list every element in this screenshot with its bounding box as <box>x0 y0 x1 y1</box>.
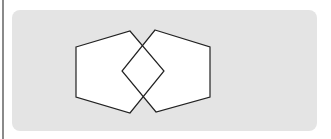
pentagon-diagram <box>0 0 331 139</box>
